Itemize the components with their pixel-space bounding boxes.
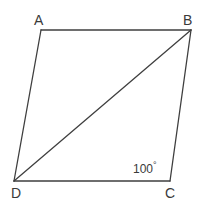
vertex-label-c: C xyxy=(165,186,175,200)
degree-symbol-icon: ° xyxy=(153,160,157,170)
edge-DA xyxy=(14,30,41,181)
vertex-label-b: B xyxy=(183,13,193,27)
figure-canvas xyxy=(0,0,204,211)
angle-value-c: 100 xyxy=(133,162,153,176)
geometry-figure: A B C D 100° xyxy=(0,0,204,211)
angle-label-c: 100° xyxy=(133,161,157,175)
vertex-label-a: A xyxy=(34,13,44,27)
vertex-label-d: D xyxy=(11,186,21,200)
edge-BC xyxy=(170,30,191,181)
diagonal-DB xyxy=(14,30,191,181)
